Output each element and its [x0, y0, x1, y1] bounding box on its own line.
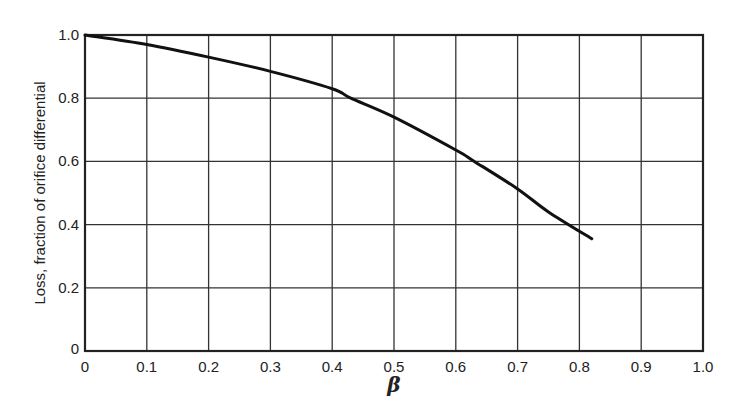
y-tick-label: 0: [71, 340, 79, 357]
x-tick-label: 0: [81, 358, 89, 375]
y-axis-label: Loss, fraction of orifice differential: [31, 81, 48, 304]
x-tick-label: 0.7: [507, 358, 528, 375]
y-axis-ticks: 00.20.40.60.81.0: [58, 26, 79, 357]
x-tick-label: 0.6: [445, 358, 466, 375]
x-axis-label: β: [386, 373, 400, 397]
x-tick-label: 0.3: [260, 358, 281, 375]
y-tick-label: 1.0: [58, 26, 79, 43]
loss-vs-beta-chart: 00.10.20.30.40.50.60.70.80.91.0 00.20.40…: [0, 0, 739, 420]
x-tick-label: 1.0: [693, 358, 714, 375]
grid-lines: [85, 35, 703, 351]
loss-curve: [85, 35, 592, 239]
x-tick-label: 0.9: [631, 358, 652, 375]
y-tick-label: 0.6: [58, 152, 79, 169]
y-tick-label: 0.2: [58, 279, 79, 296]
x-tick-label: 0.8: [569, 358, 590, 375]
x-tick-label: 0.2: [198, 358, 219, 375]
y-tick-label: 0.4: [58, 216, 79, 233]
y-tick-label: 0.8: [58, 89, 79, 106]
x-tick-label: 0.1: [136, 358, 157, 375]
x-tick-label: 0.4: [322, 358, 343, 375]
